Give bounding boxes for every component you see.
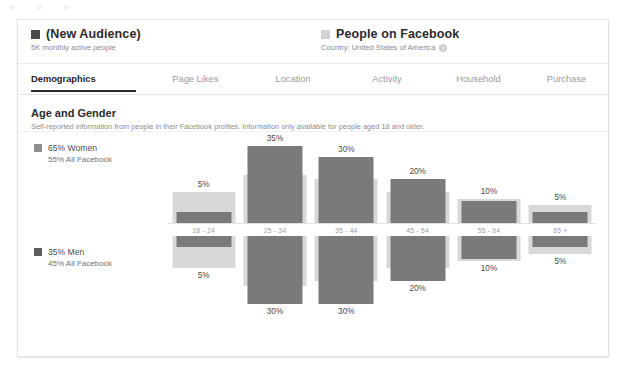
legend-men-swatch-icon bbox=[34, 248, 42, 256]
audience-title: (New Audience) bbox=[46, 27, 141, 41]
audience-summary: (New Audience) 5K monthly active people bbox=[31, 27, 141, 52]
value-label-women: 10% bbox=[481, 187, 497, 196]
audience-swatch-icon bbox=[31, 30, 40, 39]
window-dots bbox=[0, 0, 626, 14]
value-bar-men[interactable] bbox=[247, 236, 302, 304]
info-icon[interactable]: i bbox=[439, 44, 447, 52]
value-bar-women[interactable] bbox=[176, 212, 231, 223]
audience-insights-card: (New Audience) 5K monthly active people … bbox=[17, 19, 609, 357]
chart-column-men: 10% bbox=[453, 236, 524, 326]
age-bucket-label: 25 - 34 bbox=[264, 227, 287, 234]
tab-page-likes[interactable]: Page Likes bbox=[146, 64, 244, 94]
age-bucket-label: 45 - 54 bbox=[406, 227, 429, 234]
chart-column: 5%65 +5% bbox=[525, 135, 596, 340]
age-and-gender-section: Age and Gender Self-reported information… bbox=[18, 95, 608, 369]
value-bar-women[interactable] bbox=[461, 201, 516, 223]
window-dot-2 bbox=[37, 5, 42, 10]
value-bar-women[interactable] bbox=[319, 157, 374, 223]
chart-column-women: 5% bbox=[525, 135, 596, 223]
value-bar-men[interactable] bbox=[390, 236, 445, 281]
legend-women-main: 65% Women bbox=[48, 143, 97, 153]
tab-household[interactable]: Household bbox=[432, 64, 525, 94]
legend-women: 65% Women 55% All Facebook bbox=[34, 143, 112, 164]
window-dot-3 bbox=[64, 5, 69, 10]
tab-demographics[interactable]: Demographics bbox=[18, 64, 146, 94]
legend-men-sub: 45% All Facebook bbox=[48, 259, 112, 268]
value-label-men: 10% bbox=[481, 264, 497, 273]
chart-column-women: 30% bbox=[311, 135, 382, 223]
value-label-men: 20% bbox=[409, 284, 425, 293]
value-bar-women[interactable] bbox=[390, 179, 445, 223]
chart-column-men: 30% bbox=[239, 236, 310, 326]
value-label-men: 5% bbox=[198, 271, 210, 280]
value-label-men: 30% bbox=[338, 307, 354, 316]
value-bar-men[interactable] bbox=[319, 236, 374, 304]
value-bar-women[interactable] bbox=[533, 212, 588, 223]
age-gender-chart: 5%18 - 245%35%25 - 3430%30%35 - 4430%20%… bbox=[168, 135, 596, 340]
legend-women-sub: 55% All Facebook bbox=[48, 155, 112, 164]
chart-column-women: 5% bbox=[168, 135, 239, 223]
chart-column-men: 5% bbox=[525, 236, 596, 326]
value-label-men: 30% bbox=[267, 307, 283, 316]
chart-column-women: 10% bbox=[453, 135, 524, 223]
tab-location-label: Location bbox=[276, 74, 311, 84]
audience-subtitle-text: 5K monthly active people bbox=[31, 43, 116, 52]
tab-location[interactable]: Location bbox=[244, 64, 342, 94]
chart-column: 35%25 - 3430% bbox=[239, 135, 310, 340]
value-label-women: 5% bbox=[554, 193, 566, 202]
value-bar-men[interactable] bbox=[461, 236, 516, 259]
legend-men-main: 35% Men bbox=[48, 247, 84, 257]
card-header: (New Audience) 5K monthly active people … bbox=[18, 20, 608, 64]
chart-column: 10%55 - 6410% bbox=[453, 135, 524, 340]
age-bucket-label: 55 - 64 bbox=[478, 227, 501, 234]
value-label-women: 20% bbox=[409, 167, 425, 176]
legend-women-row: 65% Women bbox=[34, 143, 112, 153]
tab-demographics-label: Demographics bbox=[31, 74, 96, 84]
benchmark-title: People on Facebook bbox=[336, 27, 459, 41]
value-label-women: 5% bbox=[198, 180, 210, 189]
value-bar-women[interactable] bbox=[247, 146, 302, 223]
audience-subtitle: 5K monthly active people bbox=[31, 43, 141, 52]
audience-title-row: (New Audience) bbox=[31, 27, 141, 41]
value-bar-men[interactable] bbox=[533, 236, 588, 247]
chart-column-women: 20% bbox=[382, 135, 453, 223]
age-bucket-label: 35 - 44 bbox=[335, 227, 358, 234]
chart-columns: 5%18 - 245%35%25 - 3430%30%35 - 4430%20%… bbox=[168, 135, 596, 340]
value-label-women: 30% bbox=[338, 145, 354, 154]
chart-column: 5%18 - 245% bbox=[168, 135, 239, 340]
window-dot-1 bbox=[10, 5, 15, 10]
chart-column-men: 20% bbox=[382, 236, 453, 326]
chart-column: 20%45 - 5420% bbox=[382, 135, 453, 340]
age-bucket-label: 18 - 24 bbox=[192, 227, 215, 234]
chart-column-women: 35% bbox=[239, 135, 310, 223]
age-bucket-label: 65 + bbox=[553, 227, 567, 234]
benchmark-title-row: People on Facebook bbox=[321, 27, 459, 41]
value-label-women: 35% bbox=[267, 134, 283, 143]
chart-column: 30%35 - 4430% bbox=[311, 135, 382, 340]
section-subtitle: Self-reported information from people in… bbox=[31, 122, 608, 131]
chart-column-men: 30% bbox=[311, 236, 382, 326]
tab-household-label: Household bbox=[456, 74, 500, 84]
benchmark-swatch-icon bbox=[321, 30, 330, 39]
tab-page-likes-label: Page Likes bbox=[172, 74, 218, 84]
legend-men-row: 35% Men bbox=[34, 247, 112, 257]
tab-purchase-label: Purchase bbox=[547, 74, 586, 84]
section-title: Age and Gender bbox=[31, 107, 608, 119]
tab-purchase[interactable]: Purchase bbox=[525, 64, 608, 94]
legend-men: 35% Men 45% All Facebook bbox=[34, 247, 112, 268]
benchmark-subtitle: Country: United States of America i bbox=[321, 43, 459, 52]
benchmark-country-text: Country: United States of America bbox=[321, 43, 435, 52]
section-divider bbox=[18, 131, 608, 132]
tab-activity[interactable]: Activity bbox=[342, 64, 432, 94]
value-label-men: 5% bbox=[554, 257, 566, 266]
value-bar-men[interactable] bbox=[176, 236, 231, 247]
legend-women-swatch-icon bbox=[34, 144, 42, 152]
tab-activity-label: Activity bbox=[372, 74, 401, 84]
benchmark-summary: People on Facebook Country: United State… bbox=[321, 27, 459, 52]
demographics-tabs: Demographics Page Likes Location Activit… bbox=[18, 64, 608, 95]
chart-column-men: 5% bbox=[168, 236, 239, 326]
